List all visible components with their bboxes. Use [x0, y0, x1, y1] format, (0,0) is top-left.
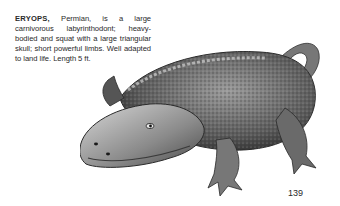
- eryops-drawing-icon: [80, 28, 340, 198]
- page-number: 139: [288, 188, 303, 198]
- species-name: ERYOPS,: [15, 14, 50, 23]
- eryops-illustration: [80, 28, 340, 198]
